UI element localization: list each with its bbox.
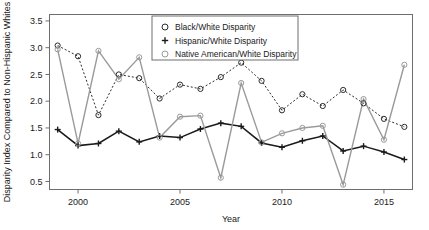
x-axis-title: Year [222, 214, 240, 224]
data-point [381, 116, 386, 121]
y-axis-title: Disparity Index Compared to Non-Hispanic… [2, 1, 12, 202]
series-markers [55, 47, 407, 188]
x-axis-ticks: 2000200520102015 [68, 190, 394, 207]
x-tick-label: 2000 [68, 197, 88, 207]
data-point [239, 60, 244, 65]
data-point [75, 54, 80, 59]
y-tick-label: 1.5 [30, 123, 43, 133]
y-tick-label: 3.5 [30, 16, 43, 26]
y-tick-label: 2.0 [30, 96, 43, 106]
chart-figure: 0.51.01.52.02.53.03.5 2000200520102015 B… [0, 0, 429, 230]
data-point [320, 103, 325, 108]
x-tick-label: 2010 [272, 197, 292, 207]
y-tick-label: 0.5 [30, 177, 43, 187]
y-axis-ticks: 0.51.01.52.02.53.03.5 [30, 16, 50, 187]
legend-label: Black/White Disparity [175, 22, 256, 32]
series-markers [55, 120, 408, 162]
legend-label: Native American/White Disparity [175, 49, 297, 59]
y-tick-label: 1.0 [30, 150, 43, 160]
legend-label: Hispanic/White Disparity [175, 36, 268, 46]
x-tick-label: 2015 [374, 197, 394, 207]
x-tick-label: 2005 [170, 197, 190, 207]
chart-legend: Black/White DisparityHispanic/White Disp… [152, 16, 298, 60]
series-line [58, 49, 405, 184]
data-point [300, 92, 305, 97]
y-tick-label: 2.5 [30, 70, 43, 80]
series-layer [55, 43, 408, 187]
y-tick-label: 3.0 [30, 43, 43, 53]
disparity-line-chart: 0.51.01.52.02.53.03.5 2000200520102015 B… [0, 0, 429, 230]
